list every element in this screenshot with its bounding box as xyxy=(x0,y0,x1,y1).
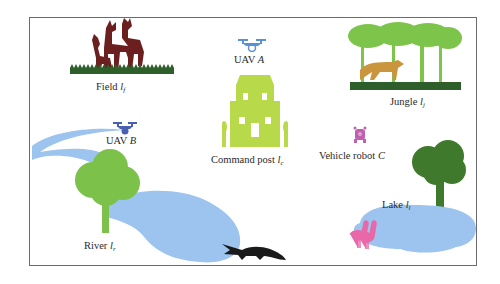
lake-label: Lake ll xyxy=(382,200,411,212)
vehicle-robot-c-label: Vehicle robot C xyxy=(319,151,385,162)
uav-b-label: UAV B xyxy=(106,136,136,147)
field-label: Field lf xyxy=(96,82,125,94)
command-post-label: Command post lc xyxy=(211,155,284,167)
scene-map-frame: River lr Field lf UAV B UAV A xyxy=(29,17,477,266)
jungle-label: Jungle lj xyxy=(390,97,425,109)
lake-tree-icon xyxy=(410,140,470,208)
uav-a-label: UAV A xyxy=(234,55,264,66)
jungle-cheetah-icon xyxy=(348,22,463,92)
river-label: River lr xyxy=(84,241,116,253)
deer-grass-icon xyxy=(66,18,178,78)
robot-icon xyxy=(352,126,368,144)
river-tree-icon xyxy=(68,145,148,235)
house-icon xyxy=(222,71,288,149)
drone-icon xyxy=(112,121,138,135)
crocodile-icon xyxy=(220,240,290,264)
drone-icon xyxy=(237,38,267,52)
flamingo-icon xyxy=(348,218,382,250)
